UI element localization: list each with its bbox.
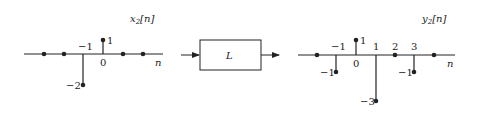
output-value-minus3: −3 — [360, 96, 375, 107]
output-axis-label: n — [447, 58, 453, 69]
output-tick-2: 2 — [392, 41, 398, 52]
input-sample-n-1 — [121, 52, 126, 57]
input-signal-plot: x2[n] n −1 0 1 −2 — [24, 13, 163, 91]
output-value-1: 1 — [360, 35, 366, 46]
input-sample-n-0 — [101, 38, 106, 43]
output-plot-title: y2[n] — [421, 13, 446, 26]
input-value-1: 1 — [107, 35, 113, 46]
input-sample-n-minus2 — [62, 52, 67, 57]
system-label: L — [225, 50, 233, 61]
input-sample-n-2 — [141, 52, 146, 57]
input-value-minus2: −2 — [66, 80, 81, 91]
input-sample-n-minus3 — [42, 52, 47, 57]
output-tick-0: 0 — [353, 58, 359, 69]
output-tick-3: 3 — [411, 41, 417, 52]
input-sample-n-minus1 — [81, 83, 86, 88]
output-value-minus1-at-3: −1 — [398, 67, 413, 78]
output-sample-n-minus2 — [315, 53, 320, 58]
output-tick-1: 1 — [373, 41, 379, 52]
system-block: L — [181, 40, 279, 70]
output-sample-n-2 — [393, 53, 398, 58]
diagram: x2[n] n −1 0 1 −2 L y2[n] n — [0, 0, 479, 113]
input-axis-label: n — [155, 57, 161, 68]
output-signal-plot: y2[n] n −1 0 1 2 3 1 −1 −3 −1 — [298, 13, 455, 107]
output-sample-n-0 — [354, 38, 359, 43]
input-plot-title: x2[n] — [130, 13, 154, 26]
input-tick-minus1: −1 — [78, 41, 93, 52]
input-tick-0: 0 — [100, 57, 106, 68]
output-sample-n-4 — [432, 53, 437, 58]
output-value-minus1-at-minus1: −1 — [320, 67, 335, 78]
output-tick-minus1: −1 — [331, 41, 346, 52]
